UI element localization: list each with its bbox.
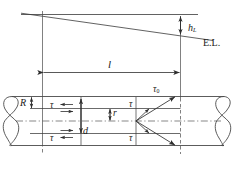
- wall-shear-label: τ0: [153, 84, 159, 94]
- shear-arrows-upper: [61, 105, 74, 112]
- length-label: l: [108, 58, 111, 70]
- shear-arrows-lower: [61, 131, 74, 138]
- energy-line-label: E.L.: [203, 37, 220, 48]
- shear-stress-profile-triangle: [136, 97, 175, 145]
- head-loss-label: hL: [188, 22, 196, 33]
- shear-label-upper: τ: [50, 100, 53, 110]
- shear-label-mid-upper: τ: [129, 99, 132, 109]
- shear-label-lower: τ: [50, 133, 53, 143]
- energy-line: [21, 13, 213, 40]
- local-radius-label: r: [113, 108, 117, 118]
- pipe-radius-label: R: [20, 97, 26, 108]
- pipe-shear-stress-diagram: [0, 0, 238, 174]
- shear-label-mid-lower: τ: [129, 133, 132, 143]
- pipe-diameter-label: d: [83, 125, 88, 136]
